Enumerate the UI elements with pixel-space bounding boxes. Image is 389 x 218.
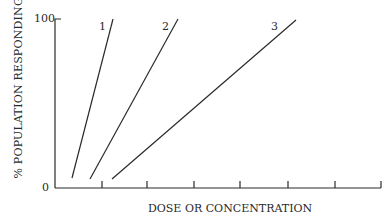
series-label-2: 2	[162, 20, 169, 33]
x-axis-label: DOSE OR CONCENTRATION	[148, 202, 312, 215]
series-label-3: 3	[271, 20, 278, 33]
series-line-2	[90, 19, 178, 179]
y-axis	[55, 19, 61, 188]
series-line-3	[112, 20, 296, 179]
series-line-1	[72, 19, 113, 178]
chart-plot	[0, 0, 389, 218]
series-label-1: 1	[99, 20, 106, 33]
